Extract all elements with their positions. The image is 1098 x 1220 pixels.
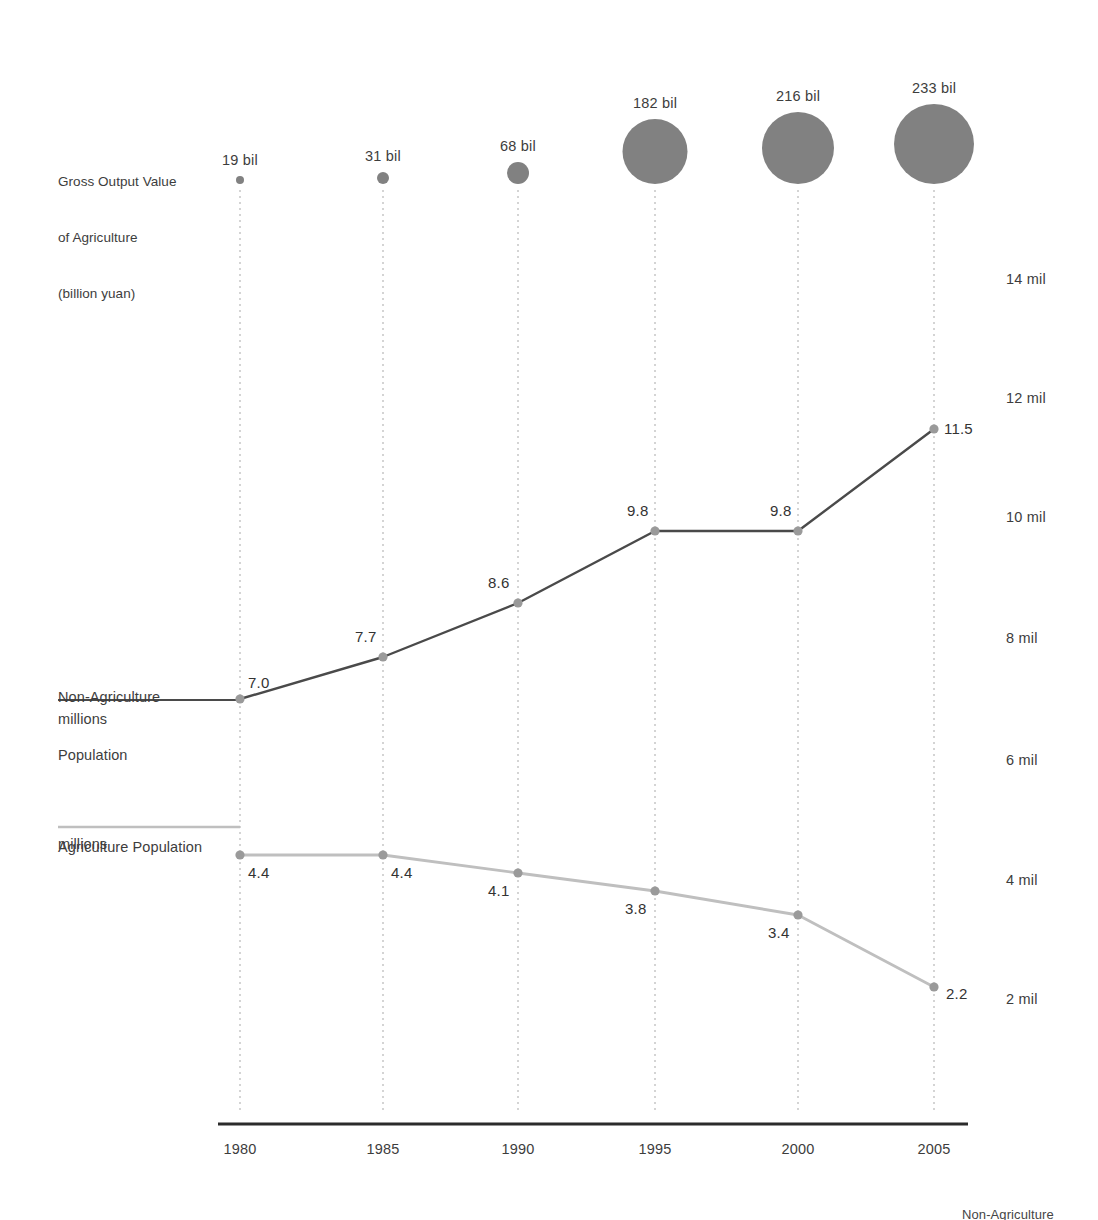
nonagri-point-markers	[235, 424, 938, 703]
bubble-label-1995: 182 bil	[633, 94, 677, 113]
agri-point-markers	[235, 850, 938, 991]
bubble-legend-line1: Gross Output Value	[58, 173, 228, 192]
nonagri-marker-1985[interactable]	[378, 652, 387, 661]
bubble-label-1990: 68 bil	[500, 137, 536, 156]
agri-population-line	[240, 855, 934, 987]
nonagri-unit-label: millions	[58, 710, 107, 729]
y-tick-6: 6 mil	[1006, 751, 1038, 770]
footer-cut-label: Non-Agriculture	[962, 1206, 1054, 1220]
nonagri-value-label-2000: 9.8	[770, 501, 791, 521]
agri-value-label-1990: 4.1	[488, 881, 509, 901]
agri-value-label-1985: 4.4	[391, 863, 412, 883]
bubble-label-2000: 216 bil	[776, 87, 820, 106]
x-tick-1995: 1995	[638, 1140, 671, 1159]
agri-value-label-2000: 3.4	[768, 923, 789, 943]
agri-unit-label: millions	[58, 835, 107, 854]
y-tick-12: 12 mil	[1006, 389, 1046, 408]
chart-container: Gross Output Value of Agriculture (billi…	[0, 0, 1098, 1220]
output-bubble-2000[interactable]	[762, 112, 834, 184]
y-tick-10: 10 mil	[1006, 508, 1046, 527]
x-tick-1990: 1990	[501, 1140, 534, 1159]
y-tick-2: 2 mil	[1006, 990, 1038, 1009]
nonagri-value-label-1990: 8.6	[488, 573, 509, 593]
output-bubble-1990[interactable]	[507, 162, 529, 184]
nonagri-marker-1990[interactable]	[513, 598, 522, 607]
y-tick-8: 8 mil	[1006, 629, 1038, 648]
nonagri-legend-line2: Population	[58, 746, 160, 765]
gridlines-group	[240, 190, 934, 1112]
output-bubble-2005[interactable]	[894, 104, 974, 184]
agri-value-label-2005: 2.2	[946, 984, 967, 1004]
nonagri-marker-1980[interactable]	[235, 694, 244, 703]
agri-value-label-1980: 4.4	[248, 863, 269, 883]
nonagri-marker-2000[interactable]	[793, 526, 802, 535]
agri-marker-1980[interactable]	[235, 850, 244, 859]
agri-marker-2005[interactable]	[929, 982, 938, 991]
output-value-bubbles	[236, 104, 974, 184]
bubble-label-1980: 19 bil	[222, 151, 258, 170]
bubble-label-1985: 31 bil	[365, 147, 401, 166]
agri-marker-1985[interactable]	[378, 850, 387, 859]
nonagri-population-line	[240, 429, 934, 699]
nonagri-value-label-1995: 9.8	[627, 501, 648, 521]
output-bubble-1995[interactable]	[623, 119, 688, 184]
nonagri-value-label-1985: 7.7	[355, 627, 376, 647]
agri-marker-1990[interactable]	[513, 868, 522, 877]
x-tick-2000: 2000	[781, 1140, 814, 1159]
y-tick-4: 4 mil	[1006, 871, 1038, 890]
bubble-label-2005: 233 bil	[912, 79, 956, 98]
nonagri-value-label-1980: 7.0	[248, 673, 269, 693]
x-tick-1980: 1980	[223, 1140, 256, 1159]
nonagri-legend-line1: Non-Agriculture	[58, 688, 160, 707]
nonagri-marker-2005[interactable]	[929, 424, 938, 433]
bubble-legend-line2: of Agriculture	[58, 229, 228, 248]
y-tick-14: 14 mil	[1006, 270, 1046, 289]
x-tick-2005: 2005	[917, 1140, 950, 1159]
nonagri-value-label-2005: 11.5	[944, 419, 973, 439]
output-bubble-1980[interactable]	[236, 176, 244, 184]
agri-marker-1995[interactable]	[650, 886, 659, 895]
output-bubble-1985[interactable]	[377, 172, 389, 184]
bubble-series-legend: Gross Output Value of Agriculture (billi…	[58, 136, 228, 341]
agri-value-label-1995: 3.8	[625, 899, 646, 919]
x-tick-1985: 1985	[366, 1140, 399, 1159]
nonagri-marker-1995[interactable]	[650, 526, 659, 535]
bubble-legend-line3: (billion yuan)	[58, 285, 228, 304]
agri-marker-2000[interactable]	[793, 910, 802, 919]
